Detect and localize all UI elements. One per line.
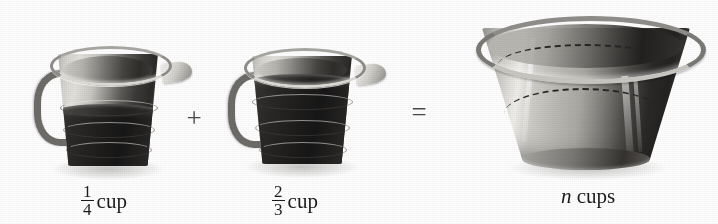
- cup-two-measurement-ring: [259, 142, 347, 158]
- cup-two-measurement-ring: [252, 94, 353, 110]
- label-measuring-cup-one: 1 4 cup: [24, 183, 184, 219]
- bowl-dashed-level-line-lower: [504, 88, 662, 140]
- bowl-base: [522, 148, 650, 170]
- cup-one-rim: [50, 46, 172, 86]
- fraction-numerator: 2: [272, 183, 285, 201]
- bowl-dashed-level-line-upper: [498, 44, 672, 86]
- cup-one-measurement-ring: [63, 122, 155, 138]
- measuring-cup-two: [238, 38, 370, 172]
- fraction-addition-illustration: + = 1 4 cup 2: [0, 0, 718, 224]
- variable-n: n: [561, 184, 572, 208]
- unit-label: cup: [288, 189, 318, 213]
- fraction-numerator: 1: [81, 183, 94, 201]
- measuring-cup-one: [44, 36, 176, 172]
- cup-one-measurement-ring: [66, 142, 152, 158]
- fraction-denominator: 4: [81, 201, 94, 218]
- plus-operator: +: [181, 105, 207, 132]
- cup-two-rim: [244, 48, 366, 88]
- fraction-two-thirds: 2 3: [272, 183, 285, 219]
- label-measuring-cup-two: 2 3 cup: [215, 183, 375, 219]
- unit-label: cups: [577, 184, 616, 208]
- label-mixing-bowl: n cups: [508, 186, 668, 207]
- cup-one-measurement-ring: [60, 100, 158, 116]
- fraction-denominator: 3: [272, 201, 285, 218]
- cup-two-measurement-ring: [255, 120, 350, 136]
- fraction-one-quarter: 1 4: [81, 183, 94, 219]
- unit-label: cup: [97, 189, 127, 213]
- equals-operator: =: [404, 99, 434, 126]
- mixing-bowl: [474, 14, 700, 174]
